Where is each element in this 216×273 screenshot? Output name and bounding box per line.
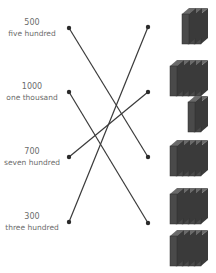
hundreds-stack	[170, 230, 208, 266]
hundreds-stack	[170, 140, 208, 176]
hundreds-stack	[170, 188, 208, 224]
hundreds-stack	[182, 8, 208, 44]
hundreds-stack	[188, 96, 208, 132]
hundreds-stack	[170, 60, 208, 96]
plates-layer	[0, 0, 216, 273]
